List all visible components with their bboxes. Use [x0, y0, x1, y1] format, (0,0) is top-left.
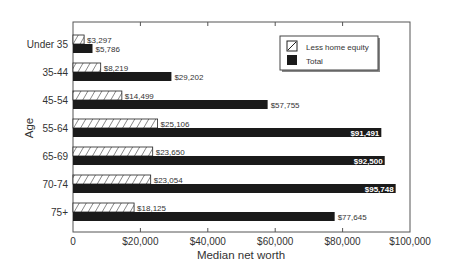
legend-swatch-solid	[287, 55, 297, 65]
y-tick-label: 55-64	[42, 123, 68, 134]
bar-total	[73, 100, 268, 109]
x-tick-label: 0	[70, 236, 76, 247]
y-tick-label: 70-74	[42, 179, 68, 190]
bar-value-label: $95,748	[365, 185, 394, 194]
bar-total	[73, 156, 385, 165]
legend: Less home equity Total	[280, 36, 380, 72]
y-tick-label: 45-54	[42, 95, 68, 106]
bar-value-label: $18,125	[137, 204, 166, 213]
x-tick-label: $60,000	[257, 236, 294, 247]
bar-total	[73, 44, 92, 53]
x-tick-label: $20,000	[122, 236, 159, 247]
bar-value-label: $8,219	[104, 64, 129, 73]
y-tick-label: 65-69	[42, 151, 68, 162]
bar-total	[73, 212, 335, 221]
bar-less-home-equity	[73, 119, 158, 128]
bar-less-home-equity	[73, 91, 122, 100]
bar-value-label: $14,499	[125, 92, 154, 101]
x-tick-label: $100,000	[389, 236, 431, 247]
bar-value-label: $23,650	[156, 148, 185, 157]
bar-total	[73, 128, 381, 137]
bar-total	[73, 184, 396, 193]
bar-value-label: $25,106	[161, 120, 190, 129]
bar-value-label: $29,202	[174, 73, 203, 82]
bar-value-label: $5,786	[95, 45, 120, 54]
bar-value-label: $23,054	[154, 176, 183, 185]
bar-less-home-equity	[73, 63, 101, 72]
x-axis-labels: 0$20,000$40,000$60,000$80,000$100,000	[70, 236, 431, 247]
y-axis-title: Age	[23, 118, 35, 138]
bar-less-home-equity	[73, 35, 84, 44]
legend-label-total: Total	[306, 57, 323, 66]
y-tick-label: 35-44	[42, 67, 68, 78]
bar-total	[73, 72, 171, 81]
x-tick-label: $80,000	[325, 236, 362, 247]
bar-chart: $3,297$5,786$8,219$29,202$14,499$57,755$…	[0, 0, 449, 276]
x-axis-title: Median net worth	[197, 249, 285, 261]
y-tick-label: 75+	[51, 207, 68, 218]
y-tick-label: Under 35	[27, 39, 69, 50]
bar-less-home-equity	[73, 147, 153, 156]
bar-value-label: $57,755	[271, 101, 300, 110]
legend-label-less-home-equity: Less home equity	[306, 43, 369, 52]
bar-less-home-equity	[73, 175, 151, 184]
bar-value-label: $77,645	[338, 213, 367, 222]
bar-value-label: $3,297	[87, 36, 112, 45]
x-tick-label: $40,000	[190, 236, 227, 247]
bar-less-home-equity	[73, 203, 134, 212]
bar-value-label: $91,491	[350, 129, 379, 138]
bar-value-label: $92,500	[354, 157, 383, 166]
